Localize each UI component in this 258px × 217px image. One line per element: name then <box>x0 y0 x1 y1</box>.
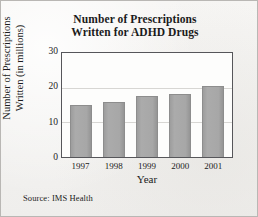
chart-title-line-2: Written for ADHD Drugs <box>35 26 235 39</box>
y-axis-title: Number of Prescriptions Written (in mill… <box>1 9 41 127</box>
x-tick-label: 1999 <box>134 161 160 171</box>
y-tick-label: 20 <box>40 83 58 93</box>
y-axis-tick-labels: 30 20 10 0 <box>39 52 58 158</box>
bar-1998 <box>103 102 125 157</box>
x-axis-tick-labels: 1997 1998 1999 2000 2001 <box>61 161 233 171</box>
bar-2001 <box>202 86 224 157</box>
bar-series <box>62 53 232 157</box>
x-axis-title: Year <box>61 173 233 185</box>
y-tick-label: 10 <box>40 118 58 128</box>
y-axis-title-line-2: Written (in millions) <box>14 9 27 127</box>
chart-title: Number of Prescriptions Written for ADHD… <box>35 13 235 39</box>
bar-1997 <box>70 105 92 157</box>
chart-title-line-1: Number of Prescriptions <box>35 13 235 26</box>
bar-1999 <box>136 96 158 157</box>
y-tick-label: 0 <box>40 153 58 163</box>
source-note: Source: IMS Health <box>23 193 93 203</box>
bar-2000 <box>169 94 191 157</box>
x-tick-label: 2001 <box>200 161 226 171</box>
x-tick-label: 2000 <box>167 161 193 171</box>
y-axis-title-line-1: Number of Prescriptions <box>1 9 14 127</box>
plot-area <box>62 53 232 157</box>
plot-frame <box>61 52 233 158</box>
x-tick-label: 1998 <box>101 161 127 171</box>
chart-figure: Number of Prescriptions Written for ADHD… <box>0 0 258 217</box>
y-tick-label: 30 <box>40 47 58 57</box>
x-tick-label: 1997 <box>68 161 94 171</box>
